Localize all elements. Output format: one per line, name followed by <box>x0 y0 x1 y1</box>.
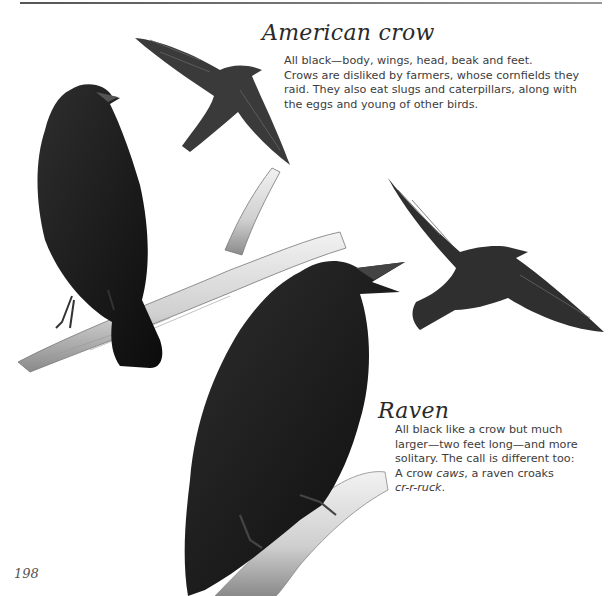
american-crow-line-1: All black—body, wings, head, beak and fe… <box>284 54 604 69</box>
call-emphasis: cr-r-ruck <box>395 481 442 494</box>
american-crow-line-3: raid. They also eat slugs and caterpilla… <box>284 83 604 98</box>
american-crow-description: All black—body, wings, head, beak and fe… <box>284 54 604 112</box>
caws-emphasis: caws <box>436 467 464 480</box>
american-crow-line-4: the eggs and young of other birds. <box>284 98 604 113</box>
raven-line-4: A crow caws, a raven croaks <box>395 467 605 482</box>
raven-line-1: All black like a crow but much <box>395 423 605 438</box>
raven-description: All black like a crow but much larger—tw… <box>395 423 605 496</box>
flying-crow-top-illustration <box>135 38 290 165</box>
raven-line-2: larger—two feet long—and more <box>395 438 605 453</box>
american-crow-line-2: Crows are disliked by farmers, whose cor… <box>284 69 604 84</box>
raven-heading: Raven <box>378 398 449 423</box>
page-number: 198 <box>14 566 39 581</box>
raven-line-3: solitary. The call is different too: <box>395 452 605 467</box>
raven-line-5: cr-r-ruck. <box>395 481 605 496</box>
american-crow-heading: American crow <box>262 20 435 45</box>
flying-crow-right-illustration <box>388 178 604 332</box>
